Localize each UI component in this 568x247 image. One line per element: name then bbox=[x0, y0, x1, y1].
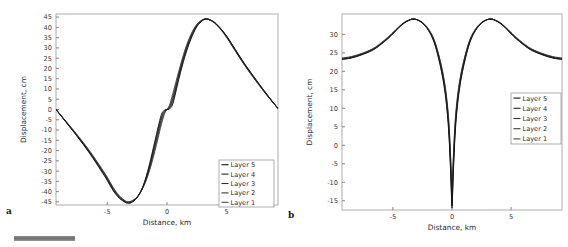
x-axis-title: Distance, km bbox=[143, 218, 192, 227]
legend-label: Layer 5 bbox=[231, 161, 256, 169]
y-tick-label: 25 bbox=[330, 49, 338, 57]
x-tick-label: -5 bbox=[104, 208, 111, 216]
y-tick-label: -5 bbox=[45, 116, 52, 124]
legend-label: Layer 1 bbox=[231, 199, 256, 207]
legend: Layer 5Layer 4Layer 3Layer 2Layer 1 bbox=[511, 93, 561, 144]
y-tick-label: -10 bbox=[41, 126, 52, 134]
y-tick-label: 35 bbox=[44, 34, 52, 42]
panel-a-letter: a bbox=[6, 206, 12, 216]
panel-a: 454035302520151050-5-10-15-20-25-30-35-4… bbox=[0, 0, 284, 247]
y-tick-label: 5 bbox=[48, 96, 52, 104]
x-tick-label: -5 bbox=[390, 213, 397, 221]
y-tick-label: -45 bbox=[41, 198, 52, 206]
y-tick-label: 20 bbox=[330, 68, 338, 76]
legend-label: Layer 3 bbox=[231, 180, 256, 188]
y-axis-title: Displacement, cm bbox=[305, 79, 314, 146]
legend: Layer 5Layer 4Layer 3Layer 2Layer 1 bbox=[219, 160, 274, 207]
legend-label: Layer 4 bbox=[231, 171, 256, 179]
y-tick-label: 45 bbox=[44, 13, 52, 21]
y-tick-label: -10 bbox=[327, 179, 338, 187]
y-tick-label: -35 bbox=[41, 178, 52, 186]
figure-two-panel-displacement: 454035302520151050-5-10-15-20-25-30-35-4… bbox=[0, 0, 568, 247]
panel-b-letter: b bbox=[288, 210, 294, 220]
y-tick-label: 0 bbox=[334, 142, 338, 150]
y-tick-label: 20 bbox=[44, 65, 52, 73]
y-tick-label: 5 bbox=[334, 123, 338, 131]
legend-label: Layer 1 bbox=[523, 135, 548, 143]
y-tick-label: 30 bbox=[330, 31, 338, 39]
panel-a-plot: 454035302520151050-5-10-15-20-25-30-35-4… bbox=[0, 0, 284, 247]
y-tick-label: 30 bbox=[44, 44, 52, 52]
y-tick-label: 25 bbox=[44, 55, 52, 63]
y-axis-title: Displacement, cm bbox=[19, 76, 28, 143]
y-tick-label: -15 bbox=[41, 137, 52, 145]
y-tick-label: -30 bbox=[41, 168, 52, 176]
x-axis-title: Distance, km bbox=[428, 223, 477, 232]
y-tick-label: 15 bbox=[330, 86, 338, 94]
x-tick-label: 0 bbox=[450, 213, 454, 221]
x-tick-label: 5 bbox=[225, 208, 229, 216]
y-tick-label: 40 bbox=[44, 24, 52, 32]
bottom-gray-bar bbox=[14, 236, 75, 241]
y-tick-label: 10 bbox=[44, 85, 52, 93]
y-tick-label: 10 bbox=[330, 105, 338, 113]
panel-b-plot: 302520151050-5-10-15-505Distance, kmDisp… bbox=[284, 0, 568, 247]
y-tick-label: 0 bbox=[48, 106, 52, 114]
legend-label: Layer 3 bbox=[523, 115, 548, 123]
y-tick-label: -20 bbox=[41, 147, 52, 155]
panel-b: 302520151050-5-10-15-505Distance, kmDisp… bbox=[284, 0, 568, 247]
legend-label: Layer 2 bbox=[231, 189, 256, 197]
y-tick-label: -15 bbox=[327, 197, 338, 205]
x-tick-label: 0 bbox=[165, 208, 169, 216]
y-tick-label: -5 bbox=[331, 160, 338, 168]
legend-label: Layer 2 bbox=[523, 125, 548, 133]
y-tick-label: -40 bbox=[41, 188, 52, 196]
x-tick-label: 5 bbox=[509, 213, 513, 221]
y-tick-label: -25 bbox=[41, 157, 52, 165]
legend-label: Layer 5 bbox=[523, 95, 548, 103]
y-tick-label: 15 bbox=[44, 75, 52, 83]
legend-label: Layer 4 bbox=[523, 105, 548, 113]
